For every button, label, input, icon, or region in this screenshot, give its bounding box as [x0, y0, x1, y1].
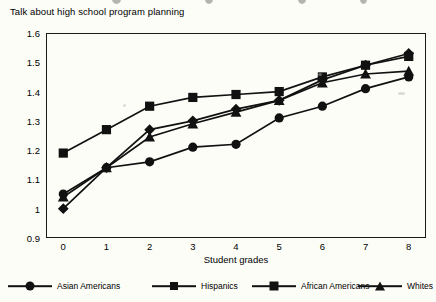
legend-label: Asian Americans — [57, 281, 120, 291]
legend-item: Asian Americans — [8, 276, 120, 296]
scan-noise — [398, 92, 405, 95]
legend-item: African Americans — [252, 276, 370, 296]
series-plot — [0, 0, 436, 302]
chart-legend: Asian AmericansHispanicsAfrican American… — [0, 276, 436, 298]
diamond-marker-icon — [152, 278, 196, 294]
series-diamond — [58, 48, 414, 214]
circle-marker-icon — [8, 278, 52, 294]
legend-label: Hispanics — [201, 281, 238, 291]
scan-noise — [123, 104, 126, 107]
square-marker-icon — [252, 278, 296, 294]
triangle-marker-icon — [358, 278, 402, 294]
chart-figure: Talk about high school program planning … — [0, 0, 436, 302]
legend-item: Whites — [358, 276, 433, 296]
series-triangle — [58, 66, 414, 202]
legend-label: Whites — [407, 281, 433, 291]
legend-item: Hispanics — [152, 276, 238, 296]
scan-noise — [318, 73, 322, 76]
